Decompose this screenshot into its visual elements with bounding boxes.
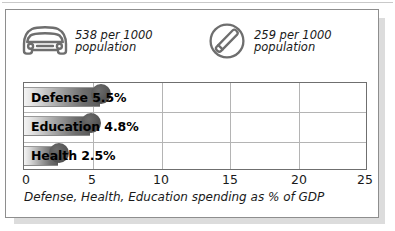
bar-row: Health 2.5%	[24, 142, 366, 171]
x-tick-5: 5	[88, 172, 96, 187]
x-tick-10: 10	[153, 172, 169, 187]
x-tick-15: 15	[222, 172, 238, 187]
bar-chart: Defense 5.5% Education 4.8% Health 2.5% …	[6, 76, 380, 219]
scan-top-rule	[2, 2, 393, 3]
chart-caption: Defense, Health, Education spending as %…	[24, 190, 324, 204]
x-tick-20: 20	[291, 172, 307, 187]
plot-area: Defense 5.5% Education 4.8% Health 2.5%	[23, 82, 367, 170]
bar-row: Defense 5.5%	[24, 83, 366, 112]
bar-label-defense: Defense 5.5%	[31, 87, 126, 107]
x-tick-25: 25	[357, 172, 373, 187]
stat-telephones-label: 259 per 1000 population	[254, 29, 332, 54]
x-tick-0: 0	[22, 172, 30, 187]
infographic-panel: 538 per 1000 population 259 per 1000 pop…	[5, 9, 379, 218]
car-front-icon	[19, 20, 71, 62]
bar-label-health: Health 2.5%	[31, 146, 115, 166]
stats-row: 538 per 1000 population 259 per 1000 pop…	[6, 10, 378, 76]
stat-cars: 538 per 1000 population	[19, 20, 153, 62]
x-axis: 0 5 10 15 20 25	[23, 172, 367, 188]
stat-telephones: 259 per 1000 population	[204, 20, 332, 62]
bar-label-education: Education 4.8%	[31, 116, 139, 136]
stat-cars-label: 538 per 1000 population	[75, 29, 153, 54]
telephone-handset-in-circle-icon	[204, 20, 250, 62]
bar-row: Education 4.8%	[24, 112, 366, 141]
